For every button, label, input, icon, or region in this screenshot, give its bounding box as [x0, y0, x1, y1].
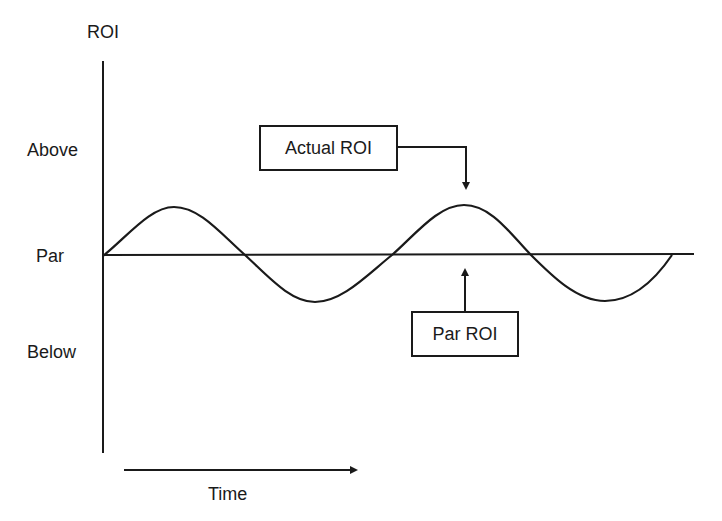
par-roi-callout: Par ROI	[411, 311, 519, 357]
actual-roi-label: Actual ROI	[285, 138, 372, 159]
y-level-above: Above	[27, 141, 78, 159]
par-line	[103, 254, 694, 255]
y-level-par: Par	[36, 247, 64, 265]
y-level-below: Below	[27, 343, 76, 361]
y-axis-title: ROI	[87, 23, 119, 41]
par-roi-label: Par ROI	[432, 324, 497, 345]
x-axis-title: Time	[208, 485, 247, 503]
roi-diagram	[0, 0, 722, 521]
actual-roi-callout: Actual ROI	[259, 125, 398, 171]
actual-roi-connector	[397, 147, 466, 188]
